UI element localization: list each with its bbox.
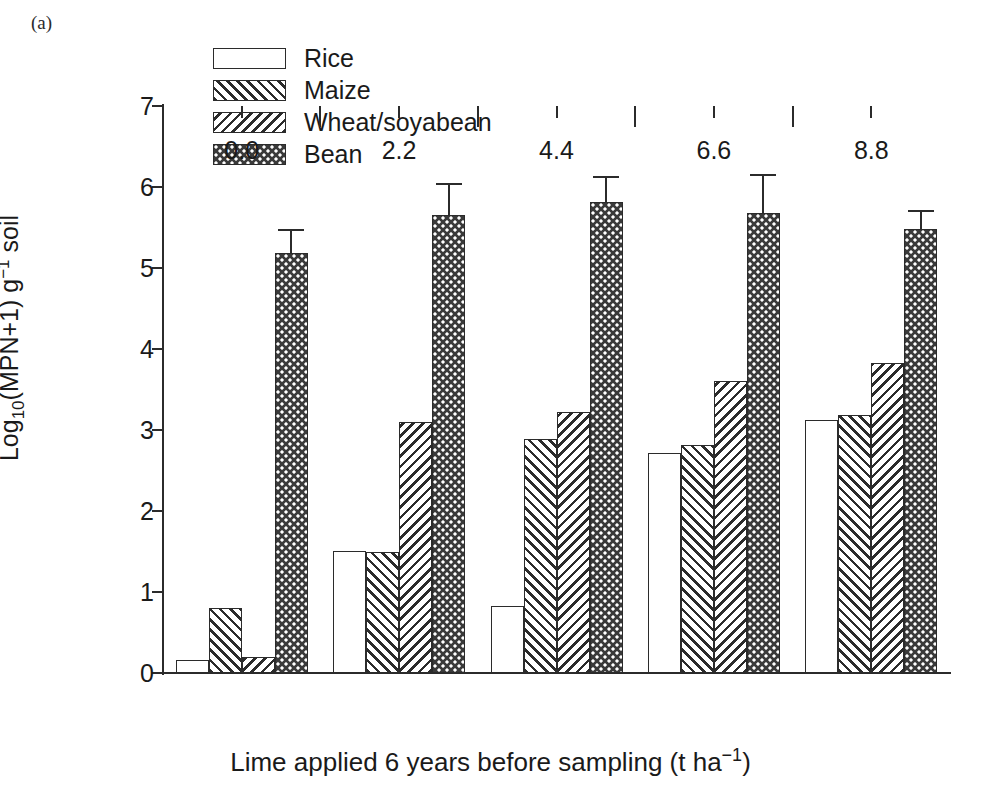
x-group-separator (477, 106, 479, 127)
x-tick-mark-8.8 (870, 106, 872, 118)
y-tick-label: 4 (140, 335, 154, 364)
x-tick-label-8.8: 8.8 (854, 136, 889, 165)
bar-bean-6.6 (747, 213, 780, 673)
error-bar-bean-6.6 (747, 174, 780, 213)
legend-swatch-maize-icon (213, 80, 286, 101)
bar-wheat-soyabean-0.0 (242, 657, 275, 673)
error-bar-bean-4.4 (590, 176, 623, 202)
x-axis-title-pre: Lime applied 6 years before sampling (t … (230, 747, 721, 777)
bar-maize-6.6 (681, 445, 714, 673)
y-tick-label: 3 (140, 416, 154, 445)
x-tick-mark-2.2 (398, 106, 400, 118)
error-bar-cap (436, 183, 462, 185)
error-bar-bean-0.0 (275, 229, 308, 253)
legend-item-maize: Maize (213, 76, 492, 104)
error-bar-stem (920, 210, 922, 229)
x-tick-mark-0.0 (241, 106, 243, 118)
legend-item-rice: Rice (213, 44, 492, 72)
error-bar-cap (278, 229, 304, 231)
error-bar-cap (750, 174, 776, 176)
bar-rice-4.4 (491, 606, 524, 673)
y-tick-label: 7 (140, 92, 154, 121)
error-bar-stem (605, 176, 607, 202)
plot-area: 01234567 0.02.24.46.68.8 (163, 106, 950, 673)
bar-maize-8.8 (838, 415, 871, 673)
bar-maize-4.4 (524, 439, 557, 673)
y-axis-title-mid: (MPN+1) g (0, 279, 23, 401)
y-axis-title-sub: 10 (9, 400, 28, 419)
x-tick-mark-4.4 (556, 106, 558, 118)
bar-bean-8.8 (904, 229, 937, 673)
y-axis-title-pre: Log (0, 419, 23, 461)
error-bar-bean-2.2 (432, 183, 465, 215)
x-axis-title: Lime applied 6 years before sampling (t … (0, 745, 981, 778)
legend-label-maize: Maize (304, 78, 371, 103)
y-tick-label: 0 (140, 659, 154, 688)
x-tick-label-2.2: 2.2 (382, 136, 417, 165)
bar-bean-4.4 (590, 202, 623, 673)
error-bar-bean-8.8 (904, 210, 937, 229)
x-group-separator (319, 106, 321, 127)
bar-wheat-soyabean-6.6 (714, 381, 747, 673)
bar-maize-0.0 (209, 608, 242, 673)
bar-maize-2.2 (366, 552, 399, 674)
y-tick-label: 6 (140, 173, 154, 202)
x-tick-mark-6.6 (713, 106, 715, 118)
figure-panel-a: (a) Rice Maize Wheat/soyabean Bean Log10… (0, 0, 981, 803)
bar-wheat-soyabean-4.4 (557, 412, 590, 673)
y-axis-title-sup: −1 (0, 259, 13, 278)
error-bar-stem (290, 229, 292, 253)
bar-rice-6.6 (648, 453, 681, 673)
legend-swatch-rice-icon (213, 48, 286, 69)
x-group-separator (792, 106, 794, 127)
bar-bean-2.2 (432, 215, 465, 673)
y-tick-label: 5 (140, 254, 154, 283)
bar-wheat-soyabean-8.8 (871, 363, 904, 673)
x-axis-title-post: ) (742, 747, 751, 777)
x-axis-title-sup: −1 (722, 745, 743, 765)
panel-label: (a) (31, 12, 52, 34)
error-bar-cap (908, 210, 934, 212)
bar-rice-0.0 (176, 660, 209, 673)
x-tick-label-4.4: 4.4 (539, 136, 574, 165)
bar-rice-8.8 (805, 420, 838, 673)
x-group-separator (634, 106, 636, 127)
error-bar-cap (593, 176, 619, 178)
error-bar-stem (762, 174, 764, 213)
x-tick-label-0.0: 0.0 (224, 136, 259, 165)
legend-label-rice: Rice (304, 46, 354, 71)
bar-bean-0.0 (275, 253, 308, 673)
error-bar-stem (448, 183, 450, 215)
y-axis-title: Log10(MPN+1) g−1 soil (0, 215, 29, 461)
bar-rice-2.2 (333, 551, 366, 673)
x-tick-label-6.6: 6.6 (697, 136, 732, 165)
y-axis-title-post: soil (0, 215, 23, 259)
y-tick-label: 2 (140, 497, 154, 526)
y-tick-label: 1 (140, 578, 154, 607)
bar-wheat-soyabean-2.2 (399, 422, 432, 673)
